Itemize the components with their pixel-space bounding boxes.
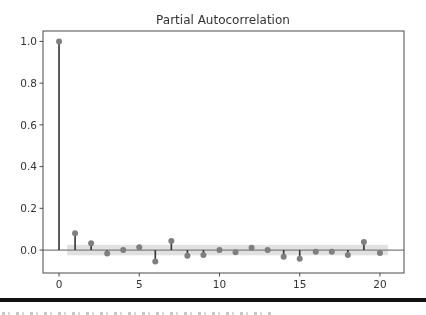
y-tick-label: 0.2 [20, 202, 37, 214]
separator-bar [0, 298, 426, 302]
x-axis: 05101520 [56, 273, 387, 290]
marker-lag-18 [345, 252, 351, 258]
y-tick-label: 1.0 [20, 35, 37, 47]
marker-lag-8 [184, 253, 190, 259]
marker-lag-13 [265, 247, 271, 253]
y-tick-label: 0.0 [20, 244, 37, 256]
chart-title: Partial Autocorrelation [156, 13, 290, 27]
marker-lag-7 [168, 238, 174, 244]
marker-lag-4 [120, 247, 126, 253]
marker-lag-11 [233, 249, 239, 255]
marker-layer [56, 38, 383, 264]
x-tick-label: 5 [136, 278, 143, 290]
x-tick-label: 10 [213, 278, 226, 290]
y-tick-label: 0.8 [20, 77, 37, 89]
clipped-caption [0, 306, 426, 315]
marker-lag-16 [313, 249, 319, 255]
marker-lag-15 [297, 256, 303, 262]
x-tick-label: 20 [373, 278, 386, 290]
marker-lag-17 [329, 249, 335, 255]
y-tick-label: 0.6 [20, 119, 37, 131]
x-tick-label: 15 [293, 278, 306, 290]
marker-lag-10 [216, 247, 222, 253]
marker-lag-2 [88, 240, 94, 246]
y-tick-label: 0.4 [20, 160, 37, 172]
marker-lag-1 [72, 230, 78, 236]
axes-frame [43, 31, 404, 273]
x-tick-label: 0 [56, 278, 63, 290]
marker-lag-12 [249, 245, 255, 251]
marker-lag-9 [200, 252, 206, 258]
marker-lag-14 [281, 254, 287, 260]
y-axis: 0.00.20.40.60.81.0 [20, 35, 43, 256]
marker-lag-3 [104, 251, 110, 257]
stem-layer [59, 41, 380, 261]
marker-lag-0 [56, 38, 62, 44]
marker-lag-5 [136, 244, 142, 250]
marker-lag-19 [361, 239, 367, 245]
marker-lag-6 [152, 259, 158, 265]
marker-lag-20 [377, 250, 383, 256]
pacf-chart: Partial Autocorrelation 0.00.20.40.60.81… [0, 0, 426, 298]
